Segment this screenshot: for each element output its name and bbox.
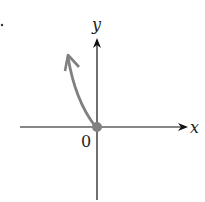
x-axis-label: x [190,118,199,137]
graph: x y 0 [0,0,205,202]
y-axis-label: y [91,15,102,34]
curve-arrowhead-icon [65,55,79,71]
item-bullet [1,24,3,26]
curve [68,57,95,126]
origin-label: 0 [81,132,91,151]
origin-dot [92,122,102,132]
